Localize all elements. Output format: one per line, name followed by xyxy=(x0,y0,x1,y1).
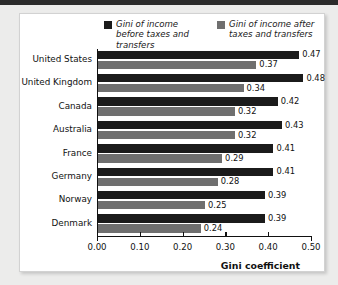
chart-row: Denmark0.390.24 xyxy=(97,213,311,236)
bar-value-label: 0.32 xyxy=(238,131,256,139)
chart-row: United States0.470.37 xyxy=(97,49,311,72)
x-axis-tick-label: 0.00 xyxy=(87,242,106,252)
legend-label-before: Gini of income before taxes and transfer… xyxy=(116,19,208,50)
category-label: United States xyxy=(32,54,92,64)
legend-item-before: Gini of income before taxes and transfer… xyxy=(104,19,208,50)
bar-before xyxy=(98,74,303,82)
plot-area: United States0.470.37United Kingdom0.480… xyxy=(97,49,311,236)
bar-after xyxy=(98,61,256,69)
category-label: Germany xyxy=(52,171,92,181)
top-band xyxy=(0,0,338,5)
x-axis-title: Gini coefficient xyxy=(221,260,300,271)
chart-row: Australia0.430.32 xyxy=(97,119,311,142)
x-axis-tick xyxy=(140,232,141,236)
x-axis-tick xyxy=(97,236,98,241)
bar-value-label: 0.29 xyxy=(225,154,243,162)
bar-before xyxy=(98,214,265,222)
x-axis-line: 0.000.100.200.300.400.50 xyxy=(97,236,311,237)
x-axis-tick xyxy=(268,232,269,236)
bar-after xyxy=(98,178,218,186)
chart-row: France0.410.29 xyxy=(97,143,311,166)
legend-item-after: Gini of income after taxes and transfers xyxy=(217,19,321,50)
category-label: France xyxy=(63,148,92,158)
bar-value-label: 0.24 xyxy=(204,224,222,232)
bar-value-label: 0.28 xyxy=(221,177,239,185)
bar-after xyxy=(98,107,235,115)
chart-panel: Gini of income before taxes and transfer… xyxy=(19,13,325,272)
bar-value-label: 0.32 xyxy=(238,107,256,115)
x-axis-tick xyxy=(183,232,184,236)
bar-before xyxy=(98,144,273,152)
bar-value-label: 0.41 xyxy=(276,167,294,175)
x-axis-tick-label: 0.40 xyxy=(259,242,278,252)
legend-swatch-after xyxy=(217,21,225,29)
chart-row: Canada0.420.32 xyxy=(97,96,311,119)
x-axis-tick-label: 0.50 xyxy=(301,242,320,252)
chart-row: United Kingdom0.480.34 xyxy=(97,72,311,95)
bar-after xyxy=(98,154,222,162)
category-label: Canada xyxy=(59,101,92,111)
bar-value-label: 0.41 xyxy=(276,144,294,152)
bar-before xyxy=(98,191,265,199)
x-axis-tick xyxy=(225,232,226,236)
chart-row: Germany0.410.28 xyxy=(97,166,311,189)
x-axis-tick-label: 0.10 xyxy=(130,242,149,252)
x-axis-tick-label: 0.20 xyxy=(173,242,192,252)
chart-page: Gini of income before taxes and transfer… xyxy=(0,0,338,285)
bar-before xyxy=(98,97,278,105)
bar-after xyxy=(98,224,201,232)
x-axis-tick-label: 0.30 xyxy=(216,242,235,252)
bar-value-label: 0.48 xyxy=(306,74,324,82)
bar-before xyxy=(98,168,273,176)
legend-swatch-before xyxy=(104,21,112,29)
bar-before xyxy=(98,121,282,129)
bar-after xyxy=(98,131,235,139)
bar-after xyxy=(98,201,205,209)
bar-value-label: 0.39 xyxy=(268,214,286,222)
bar-value-label: 0.47 xyxy=(302,50,320,58)
legend-label-after: Gini of income after taxes and transfers xyxy=(229,19,321,40)
category-label: Norway xyxy=(59,194,92,204)
chart-row: Norway0.390.25 xyxy=(97,189,311,212)
x-axis-tick xyxy=(311,236,312,241)
bar-value-label: 0.43 xyxy=(285,121,303,129)
bar-value-label: 0.25 xyxy=(208,201,226,209)
bar-after xyxy=(98,84,244,92)
bar-value-label: 0.39 xyxy=(268,191,286,199)
bar-value-label: 0.42 xyxy=(281,97,299,105)
category-label: United Kingdom xyxy=(21,77,92,87)
category-label: Denmark xyxy=(52,218,92,228)
chart-legend: Gini of income before taxes and transfer… xyxy=(104,19,322,50)
category-label: Australia xyxy=(53,124,92,134)
bar-before xyxy=(98,51,299,59)
bar-value-label: 0.34 xyxy=(247,84,265,92)
bar-value-label: 0.37 xyxy=(259,60,277,68)
